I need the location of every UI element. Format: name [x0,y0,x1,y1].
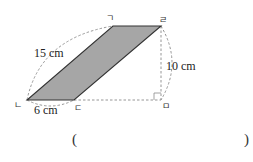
right-angle-marker [154,93,161,100]
vertex-label-foot: ㅁ [162,101,170,111]
measurement-base: 6 cm [34,103,58,117]
vertex-label-bottom-left: ㄴ [14,100,22,110]
vertex-label-top-left: ㄱ [106,13,114,23]
parallelogram-shape [27,26,161,100]
answer-paren-close: ) [244,131,249,148]
measurement-height: 10 cm [166,59,196,73]
parallelogram-figure: ㄱ ㄹ ㄴ ㄷ ㅁ 15 cm 10 cm 6 cm [0,0,253,162]
answer-paren-open: ( [72,131,77,148]
vertex-label-bottom-right: ㄷ [74,103,82,113]
measurement-diagonal-side: 15 cm [34,46,64,60]
vertex-label-top-right: ㄹ [159,15,167,25]
